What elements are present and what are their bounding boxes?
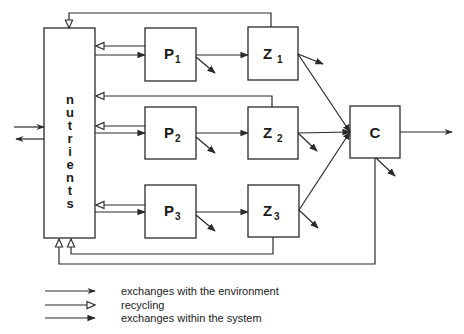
svg-text:Z: Z xyxy=(263,45,272,62)
svg-text:1: 1 xyxy=(175,54,181,65)
svg-text:Z: Z xyxy=(263,202,272,219)
legend-item-within-system: exchanges within the system xyxy=(45,312,262,324)
node-c: C xyxy=(350,106,400,158)
svg-text:exchanges within the system: exchanges within the system xyxy=(121,312,262,324)
svg-text:1: 1 xyxy=(277,54,283,65)
svg-text:3: 3 xyxy=(175,211,181,222)
node-p2: P 2 xyxy=(145,107,196,159)
svg-text:recycling: recycling xyxy=(121,299,164,311)
recycling-loops xyxy=(59,13,375,264)
p-to-z-arrows xyxy=(196,55,248,212)
nutrient-flow-diagram: n u t r i e n t s P 1 P 2 P 3 Z 1 Z 2 Z … xyxy=(0,0,464,334)
legend-item-environment: exchanges with the environment xyxy=(45,285,279,297)
svg-text:3: 3 xyxy=(274,211,280,222)
z-to-c-arrows xyxy=(298,54,350,210)
svg-text:C: C xyxy=(370,124,381,141)
node-z1: Z 1 xyxy=(248,27,298,80)
node-z3: Z 3 xyxy=(248,185,299,237)
svg-text:Z: Z xyxy=(263,124,272,141)
svg-text:2: 2 xyxy=(175,133,181,144)
environment-arrows xyxy=(14,127,44,139)
node-z2: Z 2 xyxy=(248,107,298,159)
legend-item-recycling: recycling xyxy=(45,299,164,311)
node-p3: P 3 xyxy=(145,185,196,238)
svg-text:P: P xyxy=(164,124,174,141)
svg-text:2: 2 xyxy=(277,133,283,144)
nutrients-letter: s xyxy=(66,196,73,211)
svg-text:P: P xyxy=(164,202,174,219)
p-loss-arrows xyxy=(196,57,215,231)
svg-text:P: P xyxy=(164,45,174,62)
p-nutrient-exchanges xyxy=(95,46,145,212)
svg-text:exchanges with the environment: exchanges with the environment xyxy=(121,285,279,297)
legend: exchanges with the environment recycling… xyxy=(45,285,279,324)
node-p1: P 1 xyxy=(145,28,196,81)
z-loss-arrows xyxy=(298,54,323,228)
nutrients-box: n u t r i e n t s xyxy=(44,28,95,238)
